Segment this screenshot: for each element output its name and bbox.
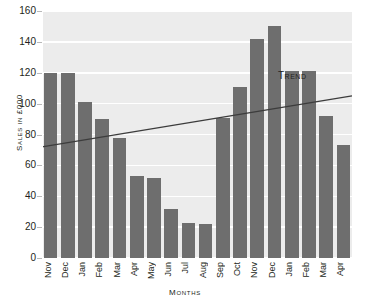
y-tick-label: 20: [8, 221, 36, 232]
y-tick-mark: [37, 73, 42, 74]
y-tick-label: 160: [8, 5, 36, 16]
y-tick-mark: [37, 165, 42, 166]
y-tick-mark: [37, 196, 42, 197]
x-tick-label: Apr: [335, 262, 352, 276]
x-tick-label: Jun: [163, 262, 180, 277]
y-tick-label: 140: [8, 36, 36, 47]
x-tick-label: Nov: [43, 262, 60, 278]
y-tick-mark: [37, 135, 42, 136]
x-tick-label: Jul: [180, 262, 197, 274]
x-tick-label: Mar: [112, 262, 129, 278]
x-tick-label: May: [146, 262, 163, 279]
x-tick-label: Sep: [215, 262, 232, 278]
y-tick-mark: [37, 258, 42, 259]
x-axis-title: Months: [0, 288, 370, 297]
trend-annotation-label: Trend: [278, 70, 306, 81]
y-tick-label: 0: [8, 252, 36, 263]
y-tick-mark: [37, 11, 42, 12]
x-tick-label: Jan: [77, 262, 94, 277]
y-tick-label: 40: [8, 190, 36, 201]
x-tick-label: Feb: [94, 262, 111, 278]
y-tick-mark: [37, 104, 42, 105]
plot-area: [42, 11, 352, 258]
y-axis-title: Sales in £000: [15, 78, 24, 168]
y-tick-label: 120: [8, 67, 36, 78]
x-tick-label: Mar: [318, 262, 335, 278]
bar-chart: 020406080100120140160 Sales in £000 Tren…: [0, 0, 370, 300]
x-tick-label: Nov: [249, 262, 266, 278]
x-tick-label: Oct: [232, 262, 249, 276]
trend-line: [42, 11, 352, 258]
x-tick-label: Apr: [129, 262, 146, 276]
x-tick-label: Aug: [198, 262, 215, 278]
x-tick-label: Dec: [267, 262, 284, 278]
x-tick-label: Dec: [60, 262, 77, 278]
y-tick-mark: [37, 227, 42, 228]
y-axis-line: [42, 11, 43, 258]
x-tick-label: Jan: [284, 262, 301, 277]
x-tick-label: Feb: [301, 262, 318, 278]
y-tick-mark: [37, 42, 42, 43]
